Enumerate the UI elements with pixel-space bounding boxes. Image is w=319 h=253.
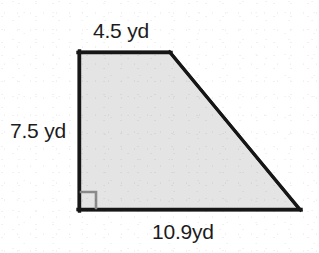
dimension-label-left: 7.5 yd	[10, 120, 66, 141]
dimension-label-bottom: 10.9yd	[152, 221, 214, 242]
dimension-label-top: 4.5 yd	[93, 20, 149, 41]
